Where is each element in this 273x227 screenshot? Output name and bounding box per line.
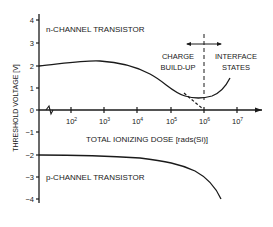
svg-text:−2: −2 (25, 151, 34, 160)
svg-text:3: 3 (30, 39, 34, 48)
x-tick-labels: 102 103 104 105 106 107 (66, 116, 243, 126)
svg-text:2: 2 (30, 62, 34, 71)
x-axis-arrow-icon (255, 108, 262, 113)
y-tick-labels: 4 3 2 1 0 −1 −2 −3 −4 (25, 16, 34, 204)
y-axis-label: THRESHOLD VOLTAGE [V] (12, 64, 20, 152)
interface-states-label-2: STATES (222, 63, 250, 72)
charge-buildup-extrapolation (184, 93, 203, 109)
svg-text:0: 0 (30, 106, 34, 115)
x-axis-label: TOTAL IONIZING DOSE [rads(Si)] (86, 135, 208, 144)
n-channel-label: n-CHANNEL TRANSISTOR (46, 25, 145, 34)
svg-text:105: 105 (166, 116, 177, 126)
p-channel-label: p-CHANNEL TRANSISTOR (46, 173, 145, 182)
svg-text:102: 102 (66, 116, 77, 126)
svg-text:103: 103 (99, 116, 110, 126)
charge-buildup-label-1: CHARGE (162, 52, 194, 61)
svg-text:106: 106 (199, 116, 210, 126)
svg-text:1: 1 (30, 84, 34, 93)
svg-text:−1: −1 (25, 128, 34, 137)
svg-text:−4: −4 (25, 195, 34, 204)
interface-states-label-1: INTERFACE (215, 52, 257, 61)
arrow-left-icon (186, 42, 191, 46)
svg-text:4: 4 (30, 16, 34, 25)
arrow-right-icon (217, 42, 222, 46)
threshold-voltage-chart: 4 3 2 1 0 −1 −2 −3 −4 102 103 104 105 10… (0, 0, 273, 227)
svg-text:−3: −3 (25, 173, 34, 182)
svg-text:104: 104 (132, 116, 143, 126)
n-channel-curve (39, 61, 230, 98)
charge-buildup-label-2: BUILD-UP (160, 63, 195, 72)
svg-text:107: 107 (232, 116, 243, 126)
